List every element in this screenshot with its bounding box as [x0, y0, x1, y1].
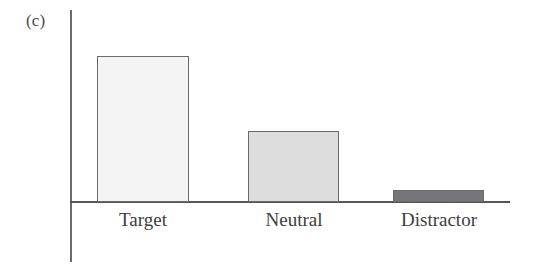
- bar-target: [97, 56, 189, 202]
- bar-distractor: [393, 190, 484, 202]
- bar-chart-figure: (c) TargetNeutralDistractor: [0, 0, 533, 272]
- plot-area: TargetNeutralDistractor: [0, 0, 533, 272]
- x-tick-label-distractor: Distractor: [383, 209, 495, 232]
- bar-neutral: [248, 131, 339, 202]
- x-tick-label-neutral: Neutral: [244, 209, 344, 232]
- x-tick-label-target: Target: [97, 209, 189, 232]
